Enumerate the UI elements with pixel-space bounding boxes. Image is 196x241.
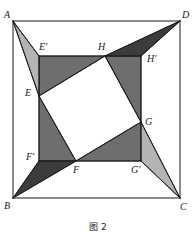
label-F-prime: F' — [26, 152, 34, 162]
label-C: C — [180, 202, 187, 212]
label-H-prime: H' — [147, 54, 156, 64]
label-G-prime: G' — [131, 165, 140, 175]
figure-canvas — [0, 0, 196, 241]
label-A: A — [4, 10, 10, 20]
geometry-figure: ADBCE'HH'EGF'FG' 图 2 — [0, 0, 196, 241]
label-H: H — [98, 42, 105, 52]
label-B: B — [4, 201, 10, 211]
label-D: D — [182, 10, 189, 20]
label-G: G — [145, 117, 152, 127]
label-E: E — [25, 88, 31, 98]
label-F: F — [73, 165, 79, 175]
figure-caption: 图 2 — [0, 222, 196, 232]
label-E-prime: E' — [39, 42, 47, 52]
